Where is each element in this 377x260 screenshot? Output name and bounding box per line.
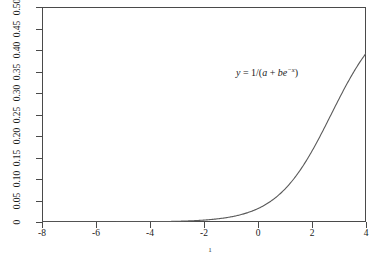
- y-axis-tick: [36, 136, 42, 137]
- x-axis-tick-label: -4: [146, 229, 154, 239]
- figure-container: 00.050.100.150.200.250.300.350.400.450.5…: [0, 0, 377, 260]
- y-axis-tick: [36, 201, 42, 202]
- x-axis-tick-label: 4: [364, 229, 369, 239]
- x-axis-tick-label: -6: [92, 229, 100, 239]
- sigmoid-curve: [42, 7, 366, 222]
- equation-rhs-open: 1/(: [251, 67, 262, 78]
- y-axis-tick-label: 0.10: [13, 171, 23, 188]
- y-axis-tick-label: 0.35: [13, 63, 23, 80]
- y-axis-tick: [36, 158, 42, 159]
- y-axis-tick-label: 0.05: [13, 192, 23, 209]
- y-axis-tick-label: 0.45: [13, 20, 23, 37]
- y-axis-tick: [36, 115, 42, 116]
- equation-rhs-close: ): [295, 67, 298, 78]
- y-axis-tick: [36, 29, 42, 30]
- y-axis-tick: [36, 7, 42, 8]
- equation-annotation: y = 1/(a + be−x): [236, 68, 298, 78]
- y-axis-tick: [36, 93, 42, 94]
- curve-layer: [42, 7, 366, 222]
- y-axis-tick-label: 0.15: [13, 149, 23, 166]
- figure-caption: 1: [208, 247, 212, 254]
- y-axis-tick: [36, 179, 42, 180]
- y-axis-tick-label: 0.20: [13, 128, 23, 145]
- y-axis-tick-label: 0: [13, 220, 23, 225]
- x-axis-tick-label: 0: [256, 229, 261, 239]
- y-axis-tick-label: 0.25: [13, 106, 23, 123]
- equation-equals: =: [243, 67, 249, 78]
- x-axis-tick-label: 2: [310, 229, 315, 239]
- x-axis-tick-label: -2: [200, 229, 208, 239]
- y-axis-tick-label: 0.30: [13, 85, 23, 102]
- y-axis-tick: [36, 50, 42, 51]
- y-axis-tick: [36, 72, 42, 73]
- x-axis-tick-label: -8: [38, 229, 46, 239]
- y-axis-tick-label: 0.40: [13, 42, 23, 59]
- equation-exponent: −x: [287, 66, 294, 73]
- y-axis-tick-label: 0.50: [13, 0, 23, 15]
